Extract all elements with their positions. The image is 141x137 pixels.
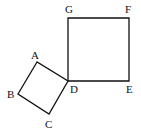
label-c: C — [45, 118, 52, 130]
label-f: F — [125, 3, 131, 15]
label-b: B — [7, 88, 14, 100]
diagram-canvas: A B C D E F G — [0, 0, 141, 137]
label-g: G — [65, 3, 73, 15]
label-a: A — [31, 49, 39, 61]
square-defg — [68, 18, 129, 81]
square-abcd — [18, 62, 68, 114]
label-e: E — [126, 83, 133, 95]
label-d: D — [70, 83, 78, 95]
